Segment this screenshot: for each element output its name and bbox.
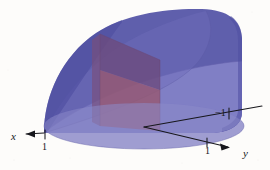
- y-axis-arrowhead: [220, 144, 230, 151]
- z-axis-tick-label: −1: [215, 108, 226, 118]
- solid-region-illustration: [0, 0, 270, 170]
- x-axis-arrowhead: [26, 131, 35, 138]
- x-axis-tick-label: 1: [42, 142, 47, 152]
- y-axis-label: y: [243, 148, 248, 159]
- y-axis-tick-label: 1: [205, 146, 210, 156]
- x-axis-label: x: [11, 131, 16, 142]
- figure-canvas: x y 1 1 −1: [0, 0, 270, 170]
